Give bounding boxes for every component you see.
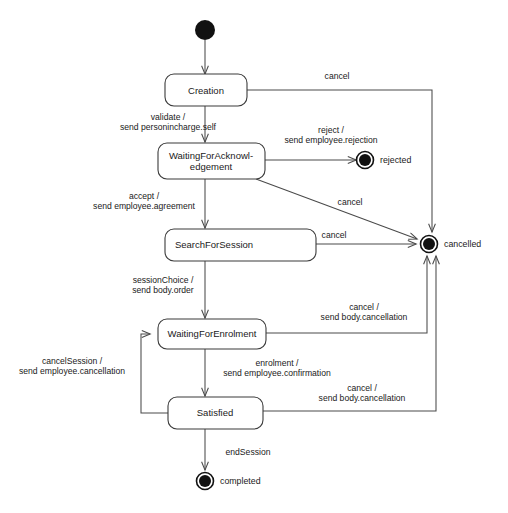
- edge-label-cancel-satisfied-line2: send body.cancellation: [319, 393, 406, 403]
- final-state-cancelled-label: cancelled: [444, 239, 481, 249]
- transition-satisfied-to-completed: endSession: [205, 429, 271, 470]
- edge-label-enrolment-line1: enrolment /: [256, 358, 300, 368]
- final-state-cancelled: cancelled: [421, 236, 482, 253]
- transition-searchforsession-to-cancelled: cancel: [316, 230, 416, 244]
- edge-label-cancel-satisfied-line1: cancel /: [347, 383, 377, 393]
- transition-creation-to-cancelled: cancel: [247, 71, 432, 232]
- transition-creation-to-waitingforacknowledgement: validate / send personincharge.self: [120, 106, 217, 142]
- edge-label-enrolment-line2: send employee.confirmation: [223, 368, 331, 378]
- transition-waitingforenrolment-to-cancelled: cancel / send body.cancellation: [266, 256, 427, 333]
- final-state-rejected: rejected: [357, 152, 412, 169]
- final-state-rejected-label: rejected: [380, 155, 411, 165]
- edge-label-reject-line1: reject /: [318, 125, 344, 135]
- state-waitingforacknowledgement-label-line2: edgement: [190, 161, 233, 172]
- state-waitingforenrolment-label: WaitingForEnrolment: [168, 328, 257, 339]
- edge-label-cancel-creation: cancel: [325, 71, 350, 81]
- state-waitingforenrolment[interactable]: WaitingForEnrolment: [158, 319, 266, 349]
- edge-label-reject-line2: send employee.rejection: [284, 135, 377, 145]
- edge-label-sessionchoice-line2: send body.order: [132, 285, 194, 295]
- edge-label-validate-line1: validate /: [151, 112, 186, 122]
- initial-state-node: [195, 20, 215, 40]
- transition-waitingforacknowledgement-to-rejected: reject / send employee.rejection: [265, 125, 378, 160]
- state-creation-label: Creation: [188, 85, 224, 96]
- edge-label-accept-line2: send employee.agreement: [93, 201, 195, 211]
- edge-label-cancel-search: cancel: [322, 230, 347, 240]
- edge-label-cancelsession-line1: cancelSession /: [42, 356, 103, 366]
- edge-label-endsession: endSession: [226, 447, 271, 457]
- final-state-completed: completed: [197, 473, 261, 490]
- edge-label-cancel-waitingack: cancel: [338, 197, 363, 207]
- state-creation[interactable]: Creation: [165, 74, 247, 106]
- transition-waitingforenrolment-to-satisfied: enrolment / send employee.confirmation: [205, 349, 331, 396]
- edge-label-validate-line2: send personincharge.self: [120, 122, 217, 132]
- state-diagram-svg: validate / send personincharge.self canc…: [0, 0, 508, 513]
- uml-state-diagram-canvas: validate / send personincharge.self canc…: [0, 0, 508, 513]
- transition-searchforsession-to-waitingforenrolment: sessionChoice / send body.order: [132, 261, 205, 318]
- transition-waitingforacknowledgement-to-searchforsession: accept / send employee.agreement: [93, 178, 205, 228]
- transition-satisfied-to-waitingforenrolment: cancelSession / send employee.cancellati…: [19, 334, 168, 413]
- state-waitingforacknowledgement[interactable]: WaitingForAcknowl- edgement: [158, 143, 265, 179]
- edge-label-cancel-enrolment-line2: send body.cancellation: [321, 312, 408, 322]
- edge-label-accept-line1: accept /: [129, 191, 160, 201]
- final-state-completed-label: completed: [220, 476, 261, 486]
- state-satisfied[interactable]: Satisfied: [168, 397, 263, 429]
- state-searchforsession-label: SearchForSession: [175, 239, 253, 250]
- state-waitingforacknowledgement-label-line1: WaitingForAcknowl-: [169, 150, 253, 161]
- state-searchforsession[interactable]: SearchForSession: [165, 229, 316, 261]
- state-satisfied-label: Satisfied: [197, 407, 233, 418]
- edge-label-sessionchoice-line1: sessionChoice /: [133, 275, 194, 285]
- edge-label-cancel-enrolment-line1: cancel /: [349, 302, 379, 312]
- edge-label-cancelsession-line2: send employee.cancellation: [19, 366, 125, 376]
